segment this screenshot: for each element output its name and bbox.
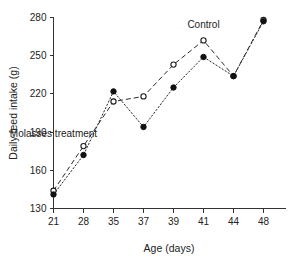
data-point-control-28 <box>81 144 86 149</box>
y-tick-label: 280 <box>30 12 47 23</box>
x-tick-label: 28 <box>78 216 90 227</box>
series-lines <box>54 20 264 195</box>
data-point-molasses-treatment-48 <box>261 19 266 24</box>
chart-container: 130160190220250280 2128353739414448 Age … <box>0 0 300 259</box>
data-point-molasses-treatment-41 <box>201 54 206 59</box>
x-tick-label: 37 <box>138 216 150 227</box>
x-axis-ticks <box>54 209 264 213</box>
y-axis-title: Daily feed intake (g) <box>7 66 19 159</box>
annotation-molasses-treatment: Molasses treatment <box>10 128 97 139</box>
x-tick-label: 39 <box>168 216 180 227</box>
data-point-control-41 <box>201 38 206 43</box>
series-line-control <box>54 20 264 191</box>
series-line-molasses-treatment <box>54 21 264 194</box>
data-point-control-37 <box>141 94 146 99</box>
data-point-control-39 <box>171 62 176 67</box>
x-tick-label: 21 <box>48 216 60 227</box>
data-point-control-35 <box>111 99 116 104</box>
y-axis-tick-labels: 130160190220250280 <box>30 12 47 214</box>
data-point-molasses-treatment-39 <box>171 85 176 90</box>
data-point-molasses-treatment-21 <box>51 192 56 197</box>
data-point-molasses-treatment-37 <box>141 124 146 129</box>
series-annotations: ControlMolasses treatment <box>10 19 220 140</box>
x-axis-tick-labels: 2128353739414448 <box>48 216 270 227</box>
x-tick-label: 44 <box>228 216 240 227</box>
feed-intake-line-chart: 130160190220250280 2128353739414448 Age … <box>0 0 300 259</box>
y-tick-label: 160 <box>30 165 47 176</box>
x-tick-label: 35 <box>108 216 120 227</box>
x-tick-label: 48 <box>258 216 270 227</box>
data-point-molasses-treatment-28 <box>81 152 86 157</box>
y-axis-ticks <box>50 18 54 209</box>
data-point-molasses-treatment-44 <box>231 73 236 78</box>
data-point-molasses-treatment-35 <box>111 89 116 94</box>
y-tick-label: 130 <box>30 203 47 214</box>
y-tick-label: 250 <box>30 50 47 61</box>
annotation-control: Control <box>187 19 219 30</box>
x-axis-title: Age (days) <box>144 242 195 254</box>
y-tick-label: 220 <box>30 88 47 99</box>
x-tick-label: 41 <box>198 216 210 227</box>
